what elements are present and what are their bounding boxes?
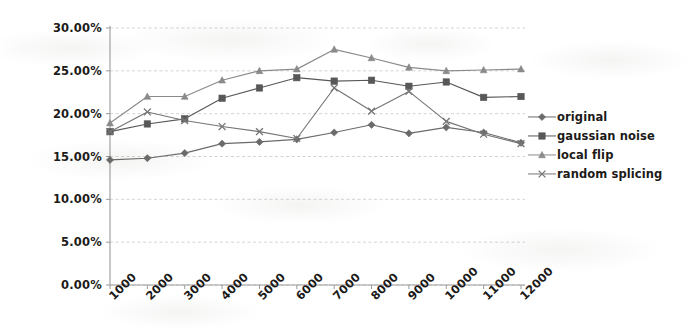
legend-item-local-flip[interactable]: local flip [528,146,696,164]
x-axis-label: 4000 [218,270,251,303]
legend-label: original [556,110,607,124]
x-axis-label: 3000 [181,270,214,303]
x-axis-label: 10000 [442,264,481,303]
data-point-cross [539,171,546,178]
legend-marker-cross-icon [528,168,556,180]
legend-marker-square-icon [528,130,556,142]
x-axis-label: 1000 [106,270,139,303]
legend-item-random-splicing[interactable]: random splicing [528,165,696,183]
legend-item-gaussian-noise[interactable]: gaussian noise [528,127,696,145]
chart-legend: originalgaussian noiselocal fliprandom s… [528,108,696,184]
x-axis-label: 2000 [143,270,176,303]
x-axis-label: 6000 [293,270,326,303]
x-axis-label: 12000 [517,264,556,303]
chart-container: 0.00%5.00%10.00%15.00%20.00%25.00%30.00%… [0,0,699,334]
x-axis-label: 7000 [330,270,363,303]
legend-label: gaussian noise [556,129,655,143]
data-point-diamond [538,113,545,120]
legend-item-original[interactable]: original [528,108,696,126]
legend-label: local flip [556,148,613,162]
legend-label: random splicing [556,167,662,181]
legend-marker-triangle-icon [528,149,556,161]
x-axis-label: 5000 [255,270,288,303]
data-point-square [539,133,545,139]
x-axis-label: 8000 [368,270,401,303]
legend-marker-diamond-icon [528,111,556,123]
data-point-triangle [539,151,546,157]
x-axis-label: 9000 [405,270,438,303]
x-axis-label: 11000 [480,264,519,303]
